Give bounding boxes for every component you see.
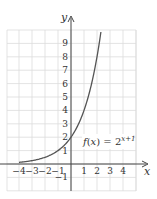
x-tick-label: −4 [12,166,26,176]
x-tick-label: 3 [107,166,113,176]
x-tick-label: 2 [94,166,100,176]
x-tick-label: 4 [120,166,126,176]
y-tick-label: 4 [62,105,68,115]
y-tick-label: 5 [62,92,68,102]
x-tick-label: −3 [25,166,39,176]
y-tick-label: 3 [62,119,68,129]
y-tick-label: −1 [55,172,68,182]
axes: yx [0,11,151,191]
x-tick-label: 1 [81,166,87,176]
y-tick-label: 8 [62,52,68,62]
y-tick-label: 9 [62,38,68,48]
y-tick-label: 2 [62,132,68,142]
y-tick-label: 7 [62,65,68,75]
x-axis-label: x [144,165,151,178]
x-tick-label: −2 [38,166,51,176]
exponential-function-graph: yx −4−3−2−11234−1123456789 f(x) = 2x+1 [0,0,157,199]
y-tick-label: 6 [62,79,68,89]
function-label: f(x) = 2x+1 [82,134,136,149]
y-axis-label: y [60,11,68,24]
